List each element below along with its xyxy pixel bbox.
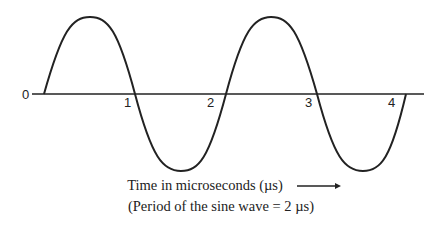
- tick-label-2: 2: [207, 95, 214, 110]
- sine-wave-diagram: 0 1 2 3 4: [0, 0, 442, 231]
- tick-label-1: 1: [124, 95, 131, 110]
- tick-label-4: 4: [388, 95, 395, 110]
- time-axis-caption: Time in microseconds (µs): [0, 177, 426, 194]
- tick-label-3: 3: [305, 95, 312, 110]
- tick-label-0: 0: [22, 87, 29, 102]
- period-caption: (Period of the sine wave = 2 µs): [0, 198, 442, 215]
